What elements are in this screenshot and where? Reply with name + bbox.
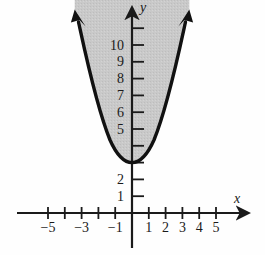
y-tick-label-8: 8 <box>104 72 124 86</box>
x-tick-label-4: 4 <box>190 221 208 235</box>
x-axis-label: x <box>234 192 240 206</box>
y-tick-label-5: 5 <box>104 123 124 137</box>
x-tick-label-2: 2 <box>157 221 175 235</box>
y-tick-label-1: 1 <box>104 190 124 204</box>
y-tick-label-10: 10 <box>94 39 124 53</box>
x-tick-label-1: 1 <box>140 221 158 235</box>
y-tick-label-7: 7 <box>104 89 124 103</box>
x-tick-label--3: −3 <box>68 221 96 235</box>
x-tick-label-3: 3 <box>173 221 191 235</box>
y-axis-label: y <box>140 1 146 15</box>
x-tick-label--5: −5 <box>34 221 62 235</box>
x-tick-label--1: −1 <box>101 221 129 235</box>
y-tick-label-9: 9 <box>104 55 124 69</box>
parabola-figure: −5 −3 −1 1 2 3 4 5 1 2 5 6 7 8 9 10 x y <box>0 0 265 255</box>
plot-canvas <box>0 0 265 255</box>
y-tick-label-6: 6 <box>104 106 124 120</box>
y-tick-label-2: 2 <box>104 173 124 187</box>
x-tick-label-5: 5 <box>207 221 225 235</box>
